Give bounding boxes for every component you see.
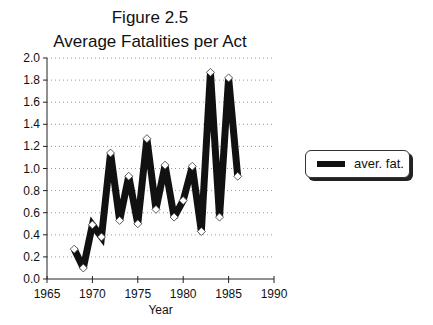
y-tick-label: 1.2 [23,139,40,153]
x-tick-label: 1980 [170,287,197,301]
legend: aver. fat. [305,150,410,178]
x-tick-label: 1965 [34,287,61,301]
legend-swatch [317,161,345,167]
y-tick-label: 2.0 [23,51,40,65]
y-tick-label: 0.2 [23,250,40,264]
y-tick-label: 0.4 [23,228,40,242]
y-tick-label: 1.4 [23,117,40,131]
y-tick-label: 0.6 [23,206,40,220]
y-tick-label: 0.0 [23,272,40,286]
y-tick-label: 1.6 [23,95,40,109]
x-axis-label: Year [148,303,172,317]
x-tick-label: 1990 [261,287,288,301]
x-tick-label: 1975 [124,287,151,301]
x-tick-label: 1970 [79,287,106,301]
x-tick-label: 1985 [215,287,242,301]
y-tick-label: 1.8 [23,73,40,87]
y-tick-label: 0.8 [23,184,40,198]
y-tick-label: 1.0 [23,162,40,176]
legend-label: aver. fat. [354,156,404,171]
